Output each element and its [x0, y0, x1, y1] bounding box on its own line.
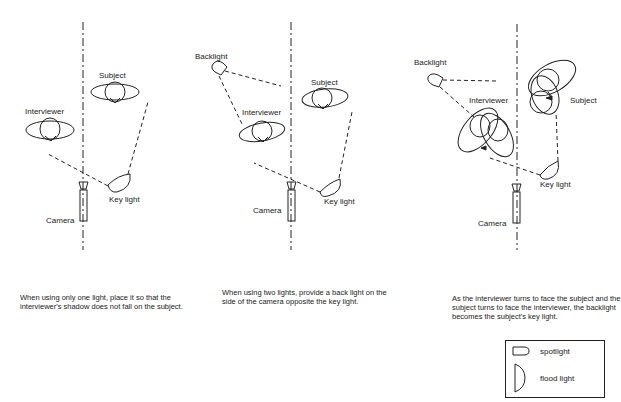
label-interviewer: Interviewer	[242, 108, 281, 117]
key-light-beam	[48, 154, 108, 186]
flood-light-key	[540, 161, 559, 179]
interviewer-figure	[26, 118, 74, 141]
subject-figure	[91, 82, 139, 103]
flood-light-icon	[512, 363, 530, 393]
subject-figure	[301, 87, 349, 110]
label-camera: Camera	[46, 216, 74, 225]
spotlight-backlight	[428, 74, 443, 87]
label-interviewer: Interviewer	[25, 107, 64, 116]
label-key-light: Key light	[324, 197, 355, 206]
label-camera: Camera	[253, 206, 281, 215]
panel-two-lights	[212, 22, 352, 250]
label-subject: Subject	[99, 71, 126, 80]
key-light-beam-subject	[339, 112, 352, 178]
label-camera: Camera	[478, 219, 506, 228]
caption-turning: As the interviewer turns to face the sub…	[452, 294, 621, 321]
interviewer-figure	[451, 101, 521, 162]
panel-turning	[428, 24, 582, 250]
backlight-beam	[225, 71, 281, 86]
flood-light-key	[320, 179, 341, 197]
caption-one-light: When using only one light, place it so t…	[20, 293, 190, 311]
key-light-beam-subject	[556, 112, 558, 161]
label-interviewer: Interviewer	[469, 96, 508, 105]
spotlight-icon	[512, 346, 530, 356]
legend-item-flood-light: flood light	[512, 363, 574, 393]
label-key-light: Key light	[109, 195, 140, 204]
label-backlight: Backlight	[414, 58, 446, 67]
legend-label-flood-light: flood light	[540, 374, 574, 383]
label-backlight: Backlight	[195, 52, 227, 61]
key-light-beam	[254, 163, 320, 192]
backlight-beam	[443, 80, 497, 81]
label-subject: Subject	[570, 96, 597, 105]
interviewer-figure	[238, 119, 286, 145]
legend-item-spotlight: spotlight	[512, 346, 570, 356]
flood-light-key	[108, 174, 130, 192]
legend: spotlight flood light	[505, 340, 605, 398]
spotlight-backlight	[212, 61, 227, 75]
label-subject: Subject	[311, 78, 338, 87]
caption-two-lights: When using two lights, provide a back li…	[222, 288, 392, 306]
panel-one-light	[26, 22, 148, 250]
backlight-beam-2	[219, 76, 242, 124]
key-light-beam-subject	[128, 102, 148, 174]
label-key-light: Key light	[540, 180, 571, 189]
legend-label-spotlight: spotlight	[540, 347, 570, 356]
subject-figure	[522, 53, 581, 118]
key-light-beam	[487, 157, 540, 175]
